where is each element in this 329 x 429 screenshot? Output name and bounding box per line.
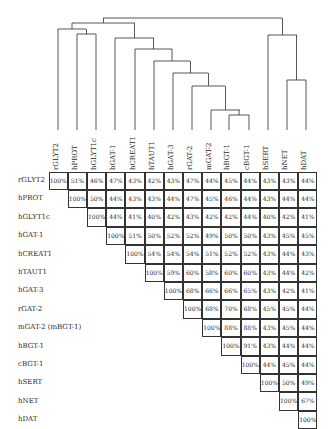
column-label: hSERT	[263, 128, 273, 170]
matrix-cell: 45%	[202, 190, 221, 208]
matrix-cell: 43%	[260, 264, 279, 282]
matrix-cell: 44%	[279, 337, 298, 355]
matrix-cell: 100%	[279, 392, 298, 410]
matrix-cell: 52%	[241, 245, 260, 263]
matrix-cell: 44%	[106, 190, 125, 208]
matrix-cell: 91%	[241, 337, 260, 355]
matrix-cell: 41%	[125, 208, 144, 226]
matrix-cell: 100%	[125, 245, 144, 263]
matrix-cell: 100%	[298, 411, 317, 429]
matrix-cell: 100%	[241, 356, 260, 374]
row-label: hPROT	[18, 189, 43, 207]
matrix-cell: 50%	[145, 227, 164, 245]
matrix-cell: 100%	[145, 264, 164, 282]
matrix-cell: 43%	[260, 319, 279, 337]
matrix-cell: 43%	[125, 190, 144, 208]
matrix-cell: 40%	[260, 208, 279, 226]
column-label: hDAT	[301, 128, 311, 170]
matrix-cell: 40%	[145, 208, 164, 226]
matrix-cell: 54%	[183, 245, 202, 263]
matrix-cell: 44%	[241, 172, 260, 190]
matrix-cell: 45%	[260, 300, 279, 318]
matrix-cell: 88%	[221, 319, 240, 337]
row-label: rGLYT2	[18, 171, 45, 189]
row-label: mGAT-2 (mBGT-1)	[18, 318, 81, 336]
matrix-cell: 51%	[68, 172, 87, 190]
row-label: hBGT-1	[18, 337, 44, 355]
row-label: hGLYT1c	[18, 208, 50, 226]
matrix-cell: 44%	[298, 319, 317, 337]
matrix-cell: 54%	[164, 245, 183, 263]
matrix-cell: 43%	[260, 172, 279, 190]
matrix-cell: 45%	[298, 227, 317, 245]
matrix-cell: 41%	[298, 282, 317, 300]
matrix-cell: 44%	[241, 208, 260, 226]
matrix-cell: 58%	[202, 264, 221, 282]
row-label: hNET	[18, 392, 38, 410]
matrix-cell: 68%	[183, 282, 202, 300]
matrix-cell: 100%	[164, 282, 183, 300]
matrix-cell: 52%	[164, 227, 183, 245]
matrix-cell: 45%	[279, 300, 298, 318]
row-label: rGAT-2	[18, 300, 42, 318]
matrix-cell: 44%	[298, 300, 317, 318]
matrix-cell: 60%	[241, 264, 260, 282]
matrix-cell: 44%	[298, 190, 317, 208]
matrix-cell: 43%	[125, 172, 144, 190]
matrix-cell: 44%	[106, 208, 125, 226]
matrix-cell: 100%	[87, 208, 106, 226]
matrix-cell: 43%	[298, 245, 317, 263]
matrix-cell: 45%	[279, 319, 298, 337]
column-label: mGAT-2	[206, 128, 216, 170]
matrix-cell: 88%	[241, 319, 260, 337]
matrix-cell: 50%	[87, 190, 106, 208]
matrix-cell: 100%	[221, 337, 240, 355]
matrix-cell: 60%	[183, 264, 202, 282]
matrix-cell: 68%	[202, 300, 221, 318]
matrix-cell: 100%	[183, 300, 202, 318]
matrix-cell: 44%	[241, 190, 260, 208]
matrix-cell: 42%	[279, 282, 298, 300]
matrix-cell: 52%	[221, 245, 240, 263]
matrix-cell: 44%	[279, 245, 298, 263]
matrix-cell: 44%	[298, 172, 317, 190]
matrix-cell: 43%	[279, 172, 298, 190]
matrix-cell: 49%	[202, 227, 221, 245]
matrix-cell: 42%	[145, 172, 164, 190]
matrix-cell: 43%	[260, 245, 279, 263]
matrix-cell: 43%	[260, 227, 279, 245]
matrix-cell: 42%	[279, 208, 298, 226]
column-label: cBGT-1	[244, 128, 254, 170]
matrix-cell: 100%	[202, 319, 221, 337]
column-label: hTAUT1	[149, 128, 159, 170]
matrix-cell: 42%	[164, 208, 183, 226]
column-label: hNET	[282, 128, 292, 170]
matrix-cell: 50%	[221, 227, 240, 245]
column-label: hGAT-3	[168, 128, 178, 170]
matrix-cell: 51%	[125, 227, 144, 245]
matrix-cell: 42%	[221, 208, 240, 226]
column-label: hCREAT1	[130, 128, 140, 170]
matrix-cell: 44%	[279, 190, 298, 208]
column-label: hGAT-1	[110, 128, 120, 170]
matrix-cell: 54%	[145, 245, 164, 263]
matrix-cell: 41%	[298, 208, 317, 226]
matrix-cell: 42%	[202, 208, 221, 226]
matrix-cell: 43%	[260, 190, 279, 208]
matrix-cell: 43%	[145, 190, 164, 208]
matrix-cell: 49%	[298, 374, 317, 392]
matrix-cell: 66%	[202, 282, 221, 300]
matrix-cell: 44%	[279, 264, 298, 282]
matrix-cell: 45%	[279, 356, 298, 374]
row-label: hGAT-1	[18, 226, 43, 244]
matrix-cell: 66%	[221, 282, 240, 300]
matrix-cell: 45%	[279, 227, 298, 245]
matrix-cell: 44%	[202, 172, 221, 190]
matrix-cell: 42%	[298, 264, 317, 282]
dendrogram	[0, 0, 329, 135]
column-label: rGAT-2	[187, 128, 197, 170]
matrix-cell: 50%	[241, 227, 260, 245]
matrix-cell: 65%	[241, 282, 260, 300]
row-label: hTAUT1	[18, 263, 47, 281]
matrix-cell: 44%	[164, 190, 183, 208]
